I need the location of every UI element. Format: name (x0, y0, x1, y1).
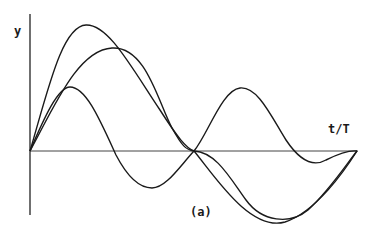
figure-caption: (a) (190, 205, 212, 219)
y-axis-label: y (14, 24, 21, 38)
x-axis-label: t/T (328, 122, 350, 136)
curve-large (30, 25, 357, 223)
waveform-plot (0, 0, 376, 237)
curve-medium (30, 48, 357, 219)
figure: y t/T (a) (0, 0, 376, 237)
curve-small (30, 87, 357, 188)
